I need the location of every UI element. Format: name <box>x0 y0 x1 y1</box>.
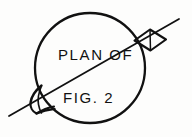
tab-edge-line <box>150 30 151 51</box>
plan-view-diagram: PLAN OF FIG. 2 <box>0 0 192 137</box>
figure-canvas: PLAN OF FIG. 2 <box>0 0 192 137</box>
label-fig-2: FIG. 2 <box>63 89 114 106</box>
label-plan-of: PLAN OF <box>58 46 133 63</box>
